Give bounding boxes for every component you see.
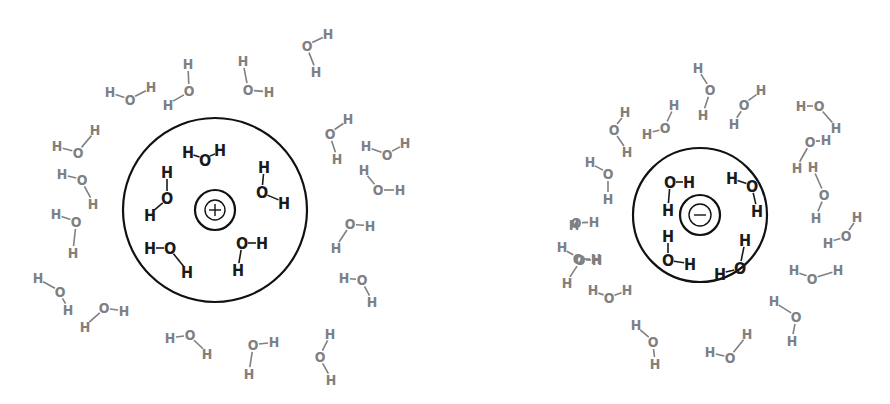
hydration-diagram: HOHHOHHOHHOHOHH HOHHOHHOHOHHHOHHOHHOHHOH… bbox=[0, 0, 890, 404]
hydrogen-atom: H bbox=[662, 227, 674, 246]
bond-line bbox=[716, 354, 725, 356]
oxygen-atom: O bbox=[841, 228, 852, 244]
hydrogen-atom: H bbox=[831, 120, 842, 136]
anion-outer-water-molecule: HOH bbox=[823, 209, 863, 251]
oxygen-atom: O bbox=[248, 337, 259, 353]
oxygen-atom: O bbox=[814, 98, 825, 114]
hydrogen-atom: H bbox=[622, 282, 633, 298]
bond-line bbox=[74, 229, 76, 246]
cation-inner-water-molecule: HOH bbox=[182, 141, 226, 170]
cation-outer-waters: HOHHOHHOHOHHHOHHOHHOHHOHOHHHOHOHHHOHOHHH… bbox=[33, 26, 411, 388]
cation-inner-water-molecule: OHH bbox=[232, 234, 268, 280]
hydrogen-atom: H bbox=[821, 132, 832, 148]
hydrogen-atom: H bbox=[146, 79, 157, 95]
hydrogen-atom: H bbox=[698, 107, 709, 123]
hydrogen-atom: H bbox=[742, 326, 753, 342]
hydrogen-atom: H bbox=[68, 245, 79, 261]
hydrogen-atom: H bbox=[161, 163, 173, 182]
hydrogen-atom: H bbox=[787, 333, 798, 349]
oxygen-atom: O bbox=[660, 120, 671, 136]
bond-line bbox=[244, 68, 247, 83]
hydrogen-atom: H bbox=[331, 240, 342, 256]
hydrogen-atom: H bbox=[808, 159, 819, 175]
bond-line bbox=[779, 305, 791, 313]
bond-line bbox=[674, 261, 684, 262]
anion-inner-waters: OHHHOHHOHHOH bbox=[662, 169, 763, 284]
hydrogen-atom: H bbox=[57, 166, 68, 182]
bond-line bbox=[818, 272, 833, 276]
cation-inner-water-molecule: HOH bbox=[144, 163, 173, 225]
hydrogen-atom: H bbox=[693, 60, 704, 76]
oxygen-atom: O bbox=[705, 82, 716, 98]
hydrogen-atom: H bbox=[332, 151, 343, 167]
oxygen-atom: O bbox=[164, 239, 176, 258]
hydrogen-atom: H bbox=[325, 326, 336, 342]
oxygen-atom: O bbox=[99, 300, 110, 316]
anion-outer-water-molecule: HOH bbox=[693, 60, 716, 123]
hydrogen-atom: H bbox=[359, 162, 370, 178]
oxygen-atom: O bbox=[805, 134, 816, 150]
diagram-canvas: HOHHOHHOHHOHOHH HOHHOHHOHOHHHOHHOHHOHHOH… bbox=[0, 0, 890, 404]
hydrogen-atom: H bbox=[343, 111, 354, 127]
oxygen-atom: O bbox=[807, 271, 818, 287]
hydrogen-atom: H bbox=[796, 98, 807, 114]
hydrogen-atom: H bbox=[182, 143, 194, 162]
plus-icon bbox=[209, 204, 221, 216]
hydrogen-atom: H bbox=[631, 317, 642, 333]
bond-line bbox=[254, 91, 263, 92]
cation-outer-water-molecule: HOH bbox=[315, 326, 337, 388]
hydrogen-atom: H bbox=[339, 270, 350, 286]
oxygen-atom: O bbox=[199, 151, 211, 170]
oxygen-atom: O bbox=[345, 216, 356, 232]
oxygen-atom: O bbox=[73, 145, 84, 161]
bond-line bbox=[68, 176, 77, 178]
hydrogen-atom: H bbox=[714, 265, 726, 284]
hydrogen-atom: H bbox=[833, 262, 844, 278]
hydrogen-atom: H bbox=[739, 231, 751, 250]
hydrogen-atom: H bbox=[589, 214, 600, 230]
hydrogen-atom: H bbox=[729, 116, 740, 132]
hydrogen-atom: H bbox=[33, 270, 44, 286]
oxygen-atom: O bbox=[382, 147, 393, 163]
anion-inner-water-molecule: HOH bbox=[726, 169, 763, 221]
anion-outer-water-molecule: HOH bbox=[631, 317, 661, 372]
bond-line bbox=[356, 225, 364, 226]
anion-outer-water-molecule: HOH bbox=[789, 262, 844, 287]
hydrogen-atom: H bbox=[792, 160, 803, 176]
cation-inner-water-molecule: HOH bbox=[256, 158, 290, 213]
cation-outer-water-molecule: HOH bbox=[52, 122, 101, 161]
anion-outer-water-molecule: HOH bbox=[769, 293, 802, 349]
bond-line bbox=[135, 91, 146, 97]
hydrogen-atom: H bbox=[367, 294, 378, 310]
hydrogen-atom: H bbox=[789, 262, 800, 278]
bond-line bbox=[62, 217, 71, 220]
anion-outer-water-molecule: HOH bbox=[705, 326, 753, 366]
hydrogen-atom: H bbox=[361, 138, 372, 154]
anion-inner-water-molecule: OHH bbox=[662, 173, 695, 220]
oxygen-atom: O bbox=[161, 189, 173, 208]
anion-outer-water-molecule: HOH bbox=[585, 154, 614, 207]
cation-outer-water-molecule: OHH bbox=[302, 26, 334, 80]
oxygen-atom: O bbox=[325, 126, 336, 142]
oxygen-atom: O bbox=[725, 350, 736, 366]
hydrogen-atom: H bbox=[232, 261, 244, 280]
hydrogen-atom: H bbox=[144, 206, 156, 225]
bond-line bbox=[312, 37, 323, 42]
anion-inner-water-molecule: HOH bbox=[714, 231, 751, 284]
hydrogen-atom: H bbox=[52, 138, 63, 154]
oxygen-atom: O bbox=[125, 92, 136, 108]
cation-outer-water-molecule: HOH bbox=[33, 270, 74, 318]
oxygen-atom: O bbox=[662, 251, 674, 270]
hydrogen-atom: H bbox=[365, 218, 376, 234]
anion-outer-water-molecule: HOH bbox=[642, 97, 680, 142]
oxygen-atom: O bbox=[184, 83, 195, 99]
oxygen-atom: O bbox=[236, 234, 248, 253]
hydrogen-atom: H bbox=[683, 173, 695, 192]
cation-outer-water-molecule: HOH bbox=[339, 270, 378, 310]
bond-line bbox=[63, 148, 73, 151]
oxygen-atom: O bbox=[357, 272, 368, 288]
cation-inner-waters: HOHHOHHOHHOHOHH bbox=[144, 141, 290, 282]
oxygen-atom: O bbox=[185, 327, 196, 343]
hydrogen-atom: H bbox=[105, 84, 116, 100]
hydrogen-atom: H bbox=[311, 64, 322, 80]
